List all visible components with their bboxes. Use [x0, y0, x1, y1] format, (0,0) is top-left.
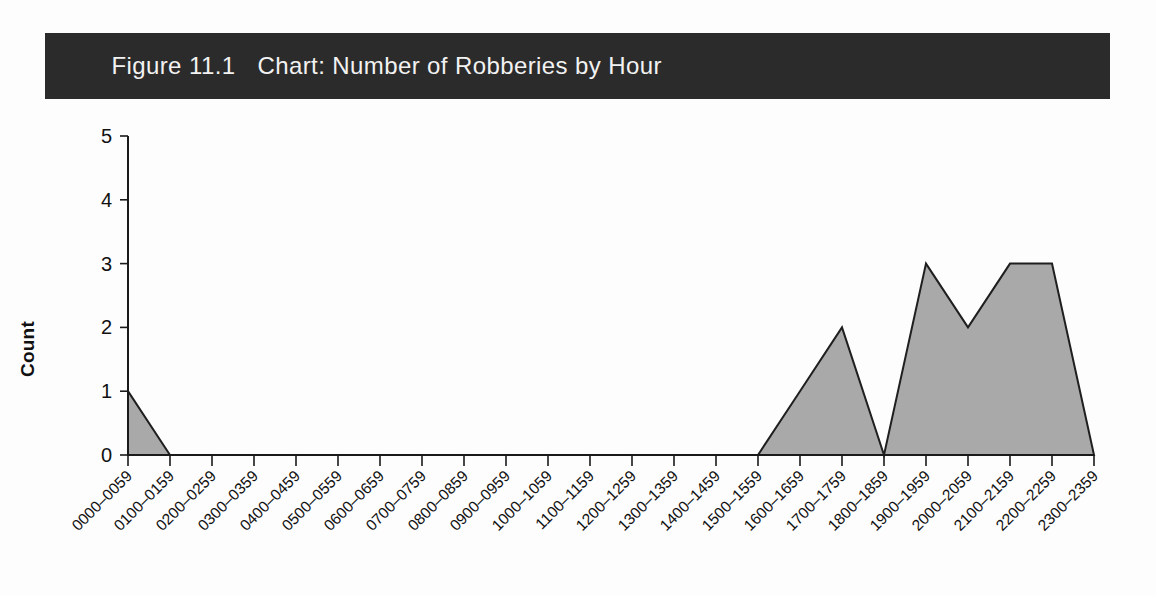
y-axis-label: Count — [17, 299, 39, 399]
y-tick-label: 5 — [101, 125, 112, 147]
area-series — [128, 264, 1094, 455]
chart-plot-area: Count 012345 0000–00590100–01590200–0259… — [0, 100, 1156, 596]
x-axis-ticks: 0000–00590100–01590200–02590300–03590400… — [68, 455, 1101, 534]
figure-title-bar: Figure 11.1Chart: Number of Robberies by… — [45, 33, 1110, 99]
figure-title-text: Chart: Number of Robberies by Hour — [257, 52, 661, 79]
y-tick-label: 2 — [101, 316, 112, 338]
figure-number: Figure 11.1 — [111, 52, 235, 79]
robberies-by-hour-area-chart: 012345 0000–00590100–01590200–02590300–0… — [0, 100, 1156, 596]
figure-title: Figure 11.1Chart: Number of Robberies by… — [45, 24, 662, 108]
y-tick-label: 0 — [101, 444, 112, 466]
y-tick-label: 4 — [101, 189, 112, 211]
y-tick-label: 3 — [101, 253, 112, 275]
y-axis-ticks: 012345 — [101, 125, 128, 466]
y-tick-label: 1 — [101, 380, 112, 402]
figure-root: Figure 11.1Chart: Number of Robberies by… — [0, 0, 1156, 596]
area-series-shape — [128, 264, 1094, 455]
